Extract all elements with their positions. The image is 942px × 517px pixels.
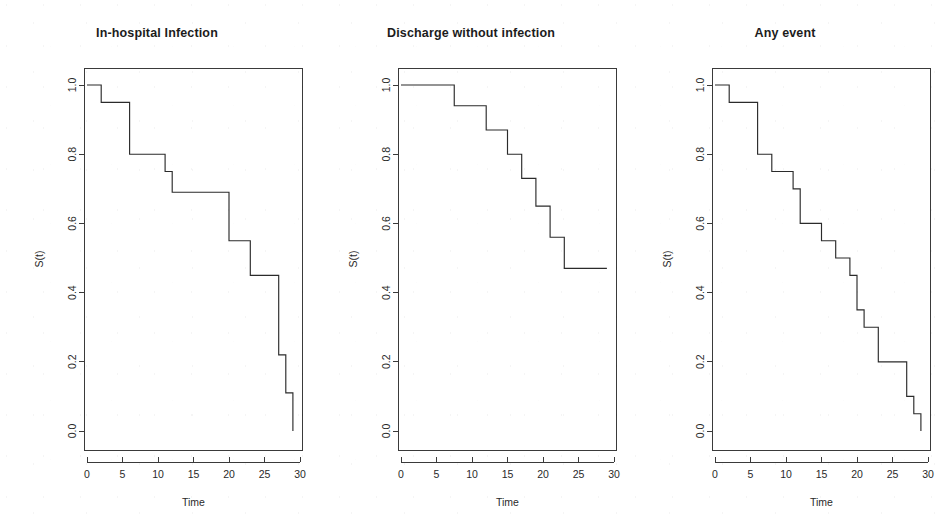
y-axis-tick-label: 0.0 bbox=[66, 424, 78, 439]
y-axis-tick-label: 0.8 bbox=[380, 147, 392, 162]
survival-step-curve bbox=[401, 85, 607, 268]
survival-plot-in-hospital-infection: 0.00.20.40.60.81.0S(t)051015202530Time bbox=[0, 0, 314, 517]
y-axis-tick-label: 0.6 bbox=[66, 216, 78, 231]
x-axis-tick-label: 5 bbox=[434, 468, 440, 480]
survival-plot-any-event: 0.00.20.40.60.81.0S(t)051015202530Time bbox=[628, 0, 942, 517]
x-axis-tick-label: 20 bbox=[223, 468, 235, 480]
y-axis-tick-label: 0.2 bbox=[694, 354, 706, 369]
x-axis-title: Time bbox=[496, 496, 519, 508]
survival-step-curve bbox=[715, 85, 921, 431]
y-axis-title: S(t) bbox=[33, 251, 45, 268]
x-axis-tick-label: 10 bbox=[466, 468, 478, 480]
y-axis-tick-label: 0.4 bbox=[694, 285, 706, 300]
x-axis-tick-label: 0 bbox=[84, 468, 90, 480]
y-axis-tick-label: 0.8 bbox=[694, 147, 706, 162]
y-axis-tick-label: 0.6 bbox=[380, 216, 392, 231]
x-axis-tick-label: 5 bbox=[748, 468, 754, 480]
panel-any-event: Any event 0.00.20.40.60.81.0S(t)05101520… bbox=[628, 0, 942, 517]
x-axis-tick-label: 0 bbox=[712, 468, 718, 480]
x-axis-tick-label: 0 bbox=[398, 468, 404, 480]
y-axis-tick-label: 0.4 bbox=[380, 285, 392, 300]
y-axis-tick-label: 1.0 bbox=[66, 78, 78, 93]
panel-discharge-without-infection: Discharge without infection 0.00.20.40.6… bbox=[314, 0, 628, 517]
x-axis-tick-label: 30 bbox=[294, 468, 306, 480]
panel-in-hospital-infection: In-hospital Infection 0.00.20.40.60.81.0… bbox=[0, 0, 314, 517]
x-axis-tick-label: 25 bbox=[573, 468, 585, 480]
x-axis-tick-label: 30 bbox=[608, 468, 620, 480]
x-axis-tick-label: 10 bbox=[152, 468, 164, 480]
y-axis-tick-label: 0.6 bbox=[694, 216, 706, 231]
x-axis-tick-label: 15 bbox=[816, 468, 828, 480]
x-axis-tick-label: 25 bbox=[259, 468, 271, 480]
x-axis-tick-label: 30 bbox=[922, 468, 934, 480]
survival-step-curve bbox=[87, 85, 293, 431]
y-axis-tick-label: 1.0 bbox=[694, 78, 706, 93]
x-axis-tick-label: 20 bbox=[537, 468, 549, 480]
x-axis-tick-label: 20 bbox=[851, 468, 863, 480]
y-axis-tick-label: 0.4 bbox=[66, 285, 78, 300]
x-axis-title: Time bbox=[810, 496, 833, 508]
x-axis-title: Time bbox=[182, 496, 205, 508]
survival-plot-discharge-without-infection: 0.00.20.40.60.81.0S(t)051015202530Time bbox=[314, 0, 628, 517]
y-axis-tick-label: 1.0 bbox=[380, 78, 392, 93]
x-axis-tick-label: 10 bbox=[780, 468, 792, 480]
x-axis-tick-label: 5 bbox=[120, 468, 126, 480]
y-axis-title: S(t) bbox=[661, 251, 673, 268]
y-axis-tick-label: 0.0 bbox=[380, 424, 392, 439]
y-axis-tick-label: 0.2 bbox=[66, 354, 78, 369]
x-axis-tick-label: 15 bbox=[188, 468, 200, 480]
figure-canvas: In-hospital Infection 0.00.20.40.60.81.0… bbox=[0, 0, 942, 517]
y-axis-tick-label: 0.0 bbox=[694, 424, 706, 439]
y-axis-title: S(t) bbox=[347, 251, 359, 268]
y-axis-tick-label: 0.2 bbox=[380, 354, 392, 369]
x-axis-tick-label: 25 bbox=[887, 468, 899, 480]
x-axis-tick-label: 15 bbox=[502, 468, 514, 480]
y-axis-tick-label: 0.8 bbox=[66, 147, 78, 162]
